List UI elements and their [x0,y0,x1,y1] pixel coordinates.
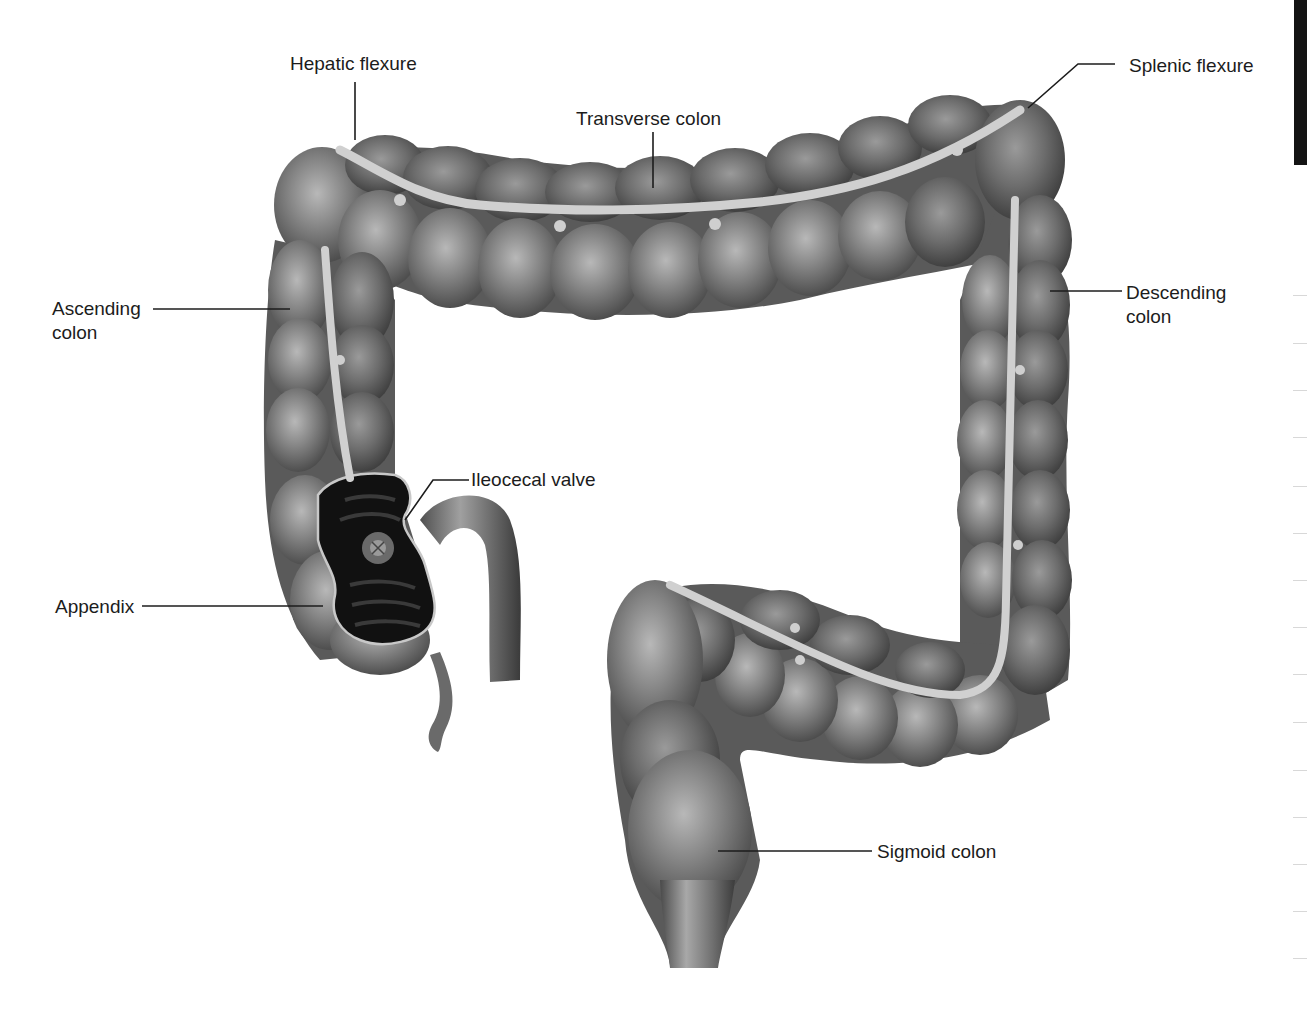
edge-tick [1293,437,1307,438]
edge-tick [1293,533,1307,534]
leader-splenic-flexure [1028,64,1115,108]
colon-illustration [0,0,1307,1011]
label-ascending-colon-line2: colon [52,321,141,345]
cecum-cutaway [318,474,435,644]
appendix [429,652,453,752]
label-descending-colon-line1: Descending [1126,281,1226,305]
edge-tick [1293,911,1307,912]
edge-tick [1293,486,1307,487]
edge-tick [1293,295,1307,296]
page-edge-bar [1294,0,1307,165]
label-ascending-colon-line1: Ascending [52,297,141,321]
label-descending-colon: Descending colon [1126,281,1226,329]
label-descending-colon-line2: colon [1126,305,1226,329]
edge-tick [1293,343,1307,344]
edge-tick [1293,770,1307,771]
label-splenic-flexure: Splenic flexure [1129,54,1254,78]
edge-tick [1293,627,1307,628]
label-sigmoid-colon: Sigmoid colon [877,840,996,864]
edge-tick [1293,958,1307,959]
edge-tick [1293,722,1307,723]
label-appendix: Appendix [55,595,134,619]
edge-tick [1293,864,1307,865]
edge-tick [1293,390,1307,391]
label-ileocecal-valve: Ileocecal valve [471,468,596,492]
edge-tick [1293,817,1307,818]
label-ascending-colon: Ascending colon [52,297,141,345]
edge-tick [1293,674,1307,675]
label-transverse-colon: Transverse colon [576,107,721,131]
sigmoid-colon [607,580,1018,968]
label-hepatic-flexure: Hepatic flexure [290,52,417,76]
edge-tick [1293,580,1307,581]
